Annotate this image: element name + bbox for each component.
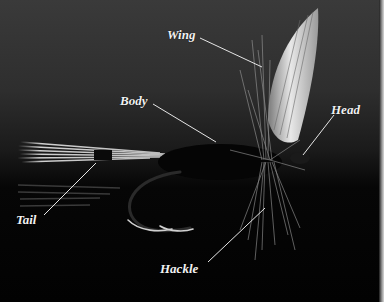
fly-illustration — [0, 0, 384, 302]
label-body: Body — [120, 94, 147, 107]
label-tail: Tail — [16, 213, 36, 226]
tail — [18, 142, 165, 162]
label-wing: Wing — [167, 28, 195, 41]
fly-anatomy-figure: Wing Body Head Tail Hackle — [0, 0, 384, 302]
body — [158, 144, 282, 180]
label-hackle: Hackle — [160, 262, 198, 275]
hook — [128, 172, 193, 231]
right-edge-strip — [379, 0, 384, 302]
label-head: Head — [331, 103, 360, 116]
head — [290, 152, 310, 164]
